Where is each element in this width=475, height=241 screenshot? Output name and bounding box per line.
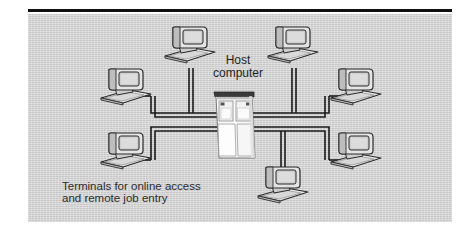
terminals-caption-line-2: and remote job entry xyxy=(62,192,167,205)
host-computer-label-line-2: computer xyxy=(178,67,298,81)
figure-container: Host computer Terminals for online acces… xyxy=(0,0,475,241)
terminal-left-lower xyxy=(101,133,151,169)
host-computer-node xyxy=(214,92,255,158)
terminal-right-upper xyxy=(331,69,381,105)
terminal-right-lower xyxy=(331,133,381,169)
terminal-left-upper xyxy=(101,69,151,105)
terminal-bottom-center xyxy=(258,167,308,203)
